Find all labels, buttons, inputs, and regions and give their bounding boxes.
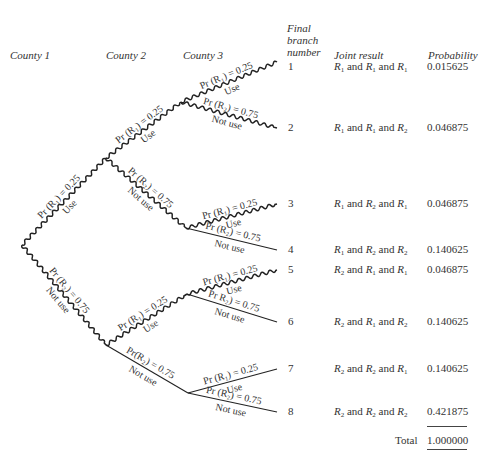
- branch-c2a-notuse: [106, 158, 186, 228]
- branch-decision-label-b4: Not use: [213, 237, 246, 255]
- branch-number: 5: [288, 263, 294, 275]
- joint-result: R1 and R2 and R2: [334, 243, 407, 257]
- probability-tree: Pr (R₁) = 0.25UsePr (R₂) = 0.75Not usePr…: [0, 0, 493, 473]
- branch-c1-use: [22, 158, 106, 245]
- branch-probability: 0.046875: [427, 263, 468, 275]
- joint-result: R1 and R1 and R2: [334, 121, 407, 135]
- branch-probability: 0.140625: [427, 243, 468, 255]
- branch-c1-notuse: [22, 245, 106, 345]
- branch-probability: 0.046875: [427, 121, 468, 133]
- branch-c2a-use: [106, 102, 181, 158]
- branch-prob-label-c1-use: Pr (R₁) = 0.25: [35, 172, 83, 221]
- branch-probability: 0.046875: [427, 197, 468, 209]
- branch-number: 7: [288, 362, 294, 374]
- branch-probability: 0.140625: [427, 315, 468, 327]
- branch-c2b-notuse: [106, 345, 188, 393]
- branch-number: 8: [288, 405, 294, 417]
- branch-c2b-use: [106, 294, 187, 345]
- total-value: 1.000000: [427, 434, 468, 446]
- branch-number: 1: [288, 60, 294, 72]
- branch-prob-label-c2a-use: Pr (R₁) = 0.25: [113, 103, 165, 146]
- branch-number: 3: [288, 197, 294, 209]
- branch-number: 6: [288, 315, 294, 327]
- joint-result: R2 and R2 and R2: [334, 405, 407, 419]
- joint-result: R1 and R2 and R1: [334, 197, 407, 211]
- branch-decision-label-b2: Not use: [211, 113, 244, 132]
- total-label: Total: [395, 434, 417, 446]
- branch-number: 2: [288, 121, 294, 133]
- joint-result: R1 and R1 and R1: [334, 60, 407, 74]
- total-rule-bottom: [427, 449, 467, 450]
- joint-result: R2 and R2 and R1: [334, 362, 407, 376]
- branch-probability: 0.015625: [427, 60, 468, 72]
- joint-result: R2 and R1 and R1: [334, 263, 407, 277]
- branch-number: 4: [288, 243, 294, 255]
- branch-probability: 0.421875: [427, 405, 468, 417]
- total-rule-top: [427, 426, 467, 427]
- branch-decision-label-b8: Not use: [215, 401, 248, 418]
- branch-probability: 0.140625: [427, 362, 468, 374]
- joint-result: R2 and R1 and R2: [334, 315, 407, 329]
